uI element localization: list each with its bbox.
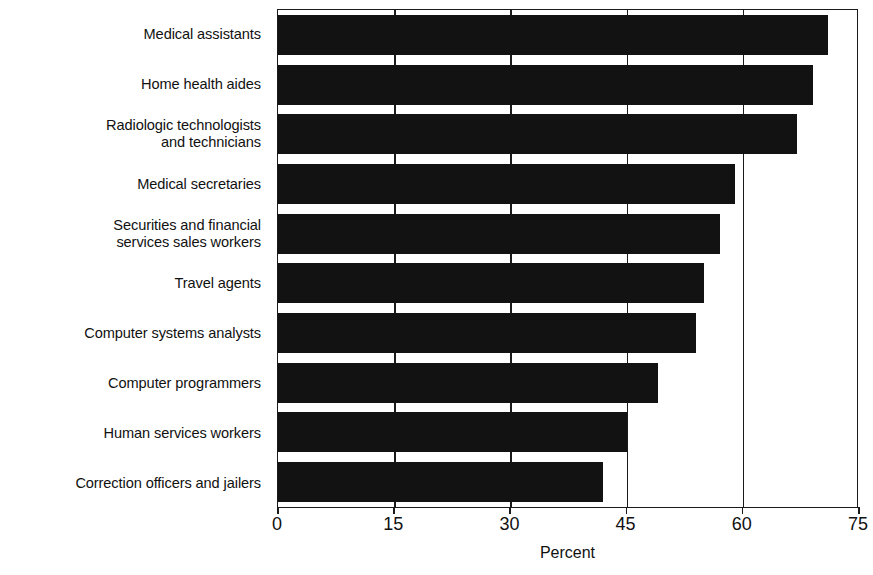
x-axis-tick	[509, 507, 511, 514]
x-axis-tick	[858, 507, 860, 514]
plot-area	[277, 9, 858, 508]
category-label: Computer programmers	[0, 358, 270, 408]
bar	[278, 65, 813, 105]
horizontal-bar-chart: Medical assistants Home health aides Rad…	[0, 0, 873, 575]
bar-row	[278, 457, 857, 507]
category-label: Medical assistants	[0, 9, 270, 59]
x-axis-tick-label: 30	[499, 514, 519, 535]
category-axis-labels: Medical assistants Home health aides Rad…	[0, 9, 270, 508]
bar-row	[278, 10, 857, 60]
x-axis-tick	[277, 507, 279, 514]
bar-row	[278, 308, 857, 358]
bar	[278, 462, 603, 502]
plot-inner	[278, 10, 857, 507]
x-axis-tick-label: 60	[732, 514, 752, 535]
bar	[278, 363, 658, 403]
x-axis-title: Percent	[277, 544, 858, 562]
x-axis-tick-label: 45	[616, 514, 636, 535]
category-label: Radiologic technologists and technicians	[0, 109, 270, 159]
bar-row	[278, 60, 857, 110]
x-axis-tick-label: 75	[848, 514, 868, 535]
category-label: Travel agents	[0, 259, 270, 309]
bar	[278, 214, 720, 254]
x-axis-tick-label: 0	[272, 514, 282, 535]
category-label: Medical secretaries	[0, 159, 270, 209]
bar-row	[278, 109, 857, 159]
bar-row	[278, 259, 857, 309]
bar-row	[278, 159, 857, 209]
bar	[278, 15, 828, 55]
category-label: Human services workers	[0, 408, 270, 458]
bar	[278, 114, 797, 154]
x-axis-tick	[626, 507, 628, 514]
bar	[278, 313, 696, 353]
bar	[278, 263, 704, 303]
bar-row	[278, 209, 857, 259]
x-axis-tick	[742, 507, 744, 514]
x-axis-tick-label: 15	[383, 514, 403, 535]
bar	[278, 164, 735, 204]
category-label: Securities and financial services sales …	[0, 209, 270, 259]
bar-row	[278, 408, 857, 458]
category-label: Home health aides	[0, 59, 270, 109]
bar-series	[278, 10, 857, 507]
x-axis-tick-labels: 01530456075	[277, 514, 858, 540]
category-label: Computer systems analysts	[0, 308, 270, 358]
bar	[278, 412, 627, 452]
bar-row	[278, 358, 857, 408]
x-axis-tick	[393, 507, 395, 514]
category-label: Correction officers and jailers	[0, 458, 270, 508]
